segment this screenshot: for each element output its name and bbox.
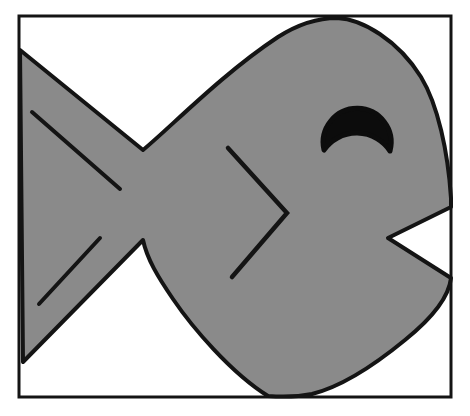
fish-drawing-svg xyxy=(0,0,470,416)
fish-illustration xyxy=(0,0,470,416)
